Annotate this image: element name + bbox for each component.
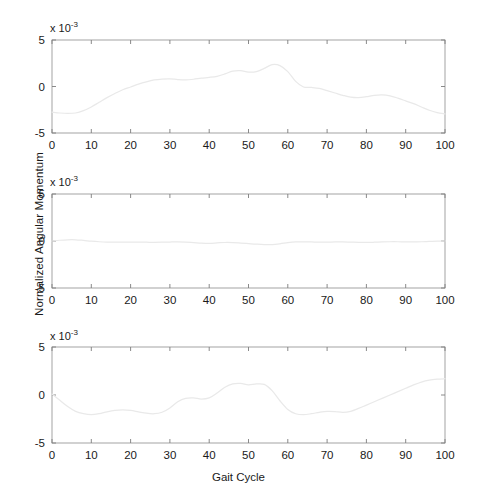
x-tick-label: 40 xyxy=(203,139,216,151)
x-tick-label: 90 xyxy=(399,139,412,151)
x-tick-label: 0 xyxy=(49,294,55,306)
x-tick-label: 20 xyxy=(124,294,137,306)
x-tick-label: 80 xyxy=(360,139,373,151)
x-tick-label: 40 xyxy=(203,449,216,461)
x-tick-label: 50 xyxy=(242,294,255,306)
y-tick-label: 0 xyxy=(39,389,45,401)
x-tick-label: 0 xyxy=(49,139,55,151)
x-tick-label: 30 xyxy=(164,449,177,461)
plot-area-bottom: 010203040506070809010050-5 xyxy=(0,306,477,481)
x-tick-label: 50 xyxy=(242,449,255,461)
x-tick-label: 50 xyxy=(242,139,255,151)
y-axis-label: Normalized Angular Momentum xyxy=(33,119,45,349)
plot-area-top: 010203040506070809010050-5 xyxy=(0,0,477,170)
figure-canvas: x 10-3 010203040506070809010050-5 x 10-3… xyxy=(0,0,477,500)
data-curve xyxy=(52,379,445,415)
x-tick-label: 10 xyxy=(85,139,98,151)
x-axis-label: Gait Cycle xyxy=(0,471,477,483)
panel-bottom: x 10-3 010203040506070809010050-5 xyxy=(0,306,477,481)
x-tick-label: 40 xyxy=(203,294,216,306)
x-tick-label: 80 xyxy=(360,294,373,306)
axis-box xyxy=(52,194,445,288)
x-tick-label: 90 xyxy=(399,449,412,461)
y-tick-label: 5 xyxy=(39,34,45,46)
x-tick-label: 10 xyxy=(85,449,98,461)
plot-area-middle: 010203040506070809010050-5 xyxy=(0,153,477,323)
y-tick-label: 0 xyxy=(39,81,45,93)
x-tick-label: 70 xyxy=(321,449,334,461)
axis-box xyxy=(52,40,445,133)
y-tick-label: -5 xyxy=(35,437,45,449)
x-tick-label: 0 xyxy=(49,449,55,461)
x-tick-label: 10 xyxy=(85,294,98,306)
x-tick-label: 90 xyxy=(399,294,412,306)
x-tick-label: 70 xyxy=(321,294,334,306)
x-tick-label: 70 xyxy=(321,139,334,151)
x-tick-label: 30 xyxy=(164,139,177,151)
x-tick-label: 20 xyxy=(124,139,137,151)
data-curve xyxy=(52,64,445,114)
panel-top: x 10-3 010203040506070809010050-5 xyxy=(0,0,477,170)
x-tick-label: 20 xyxy=(124,449,137,461)
x-tick-label: 60 xyxy=(281,294,294,306)
x-tick-label: 30 xyxy=(164,294,177,306)
x-tick-label: 80 xyxy=(360,449,373,461)
data-curve xyxy=(52,240,445,245)
axis-box xyxy=(52,347,445,443)
x-tick-label: 100 xyxy=(435,294,454,306)
x-tick-label: 60 xyxy=(281,449,294,461)
x-tick-label: 60 xyxy=(281,139,294,151)
panel-middle: x 10-3 010203040506070809010050-5 xyxy=(0,153,477,323)
x-tick-label: 100 xyxy=(435,139,454,151)
x-tick-label: 100 xyxy=(435,449,454,461)
